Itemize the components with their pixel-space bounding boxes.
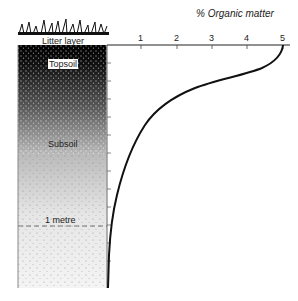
topsoil-label: Topsoil	[48, 59, 78, 69]
grass-illustration	[19, 19, 107, 34]
x-axis-title: % Organic matter	[196, 9, 274, 19]
one-metre-label: 1 metre	[45, 215, 76, 225]
organic-matter-curve	[108, 45, 283, 288]
subsoil-label: Subsoil	[48, 139, 78, 149]
x-tick-3: 3	[209, 33, 214, 43]
x-tick-4: 4	[244, 33, 249, 43]
litter-band	[18, 32, 109, 35]
x-tick-5: 5	[280, 33, 285, 43]
litter-layer-label: Litter layer	[42, 36, 84, 46]
x-tick-2: 2	[174, 33, 179, 43]
x-tick-1: 1	[138, 33, 143, 43]
